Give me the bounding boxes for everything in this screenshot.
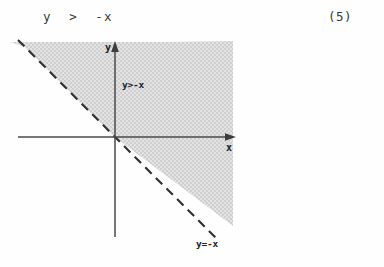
shaded-region-fill [22,41,233,226]
boundary-line-label: y=-x [196,238,218,249]
y-axis-label: y [105,42,111,53]
figure-page: y > -x (5) [0,0,384,267]
figure-graph: Fig. 1 [0,32,384,267]
x-axis-label: x [226,142,232,153]
coordinate-plane-svg [0,32,384,267]
equation-number: (5) [328,9,352,24]
equation-line: y > -x (5) [0,9,384,29]
region-label: y>-x [122,79,144,90]
inequality-expression: y > -x [43,9,113,24]
